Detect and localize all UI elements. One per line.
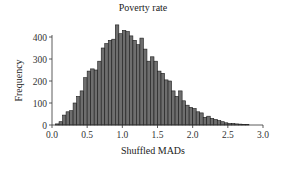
- x-tick-label: 0.0: [46, 130, 58, 140]
- histogram-bar: [129, 36, 133, 125]
- histogram-bar: [168, 81, 172, 125]
- histogram-bar: [91, 69, 95, 125]
- x-tick-label: 2.5: [222, 130, 234, 140]
- histogram-bar: [193, 109, 197, 126]
- histogram-bar: [136, 45, 140, 125]
- x-tick-label: 0.5: [81, 130, 93, 140]
- histogram-bar: [217, 121, 221, 125]
- x-tick-label: 1.5: [152, 130, 164, 140]
- histogram-bar: [112, 39, 116, 125]
- histogram-bar: [186, 105, 190, 125]
- histogram-bar: [80, 91, 84, 125]
- histogram-bar: [207, 116, 211, 125]
- histogram-bar: [108, 40, 112, 125]
- histogram-bar: [98, 61, 102, 125]
- x-tick-label: 3.0: [257, 130, 269, 140]
- y-tick-label: 300: [33, 55, 48, 65]
- histogram-bar: [70, 111, 74, 125]
- histogram-bar: [133, 40, 137, 125]
- y-tick-label: 0: [42, 121, 47, 131]
- histogram-bar: [143, 49, 147, 125]
- histogram-bar: [158, 71, 162, 125]
- histogram-bar: [214, 120, 218, 126]
- histogram-bar: [221, 122, 225, 125]
- histogram-bar: [179, 91, 183, 125]
- histogram-bar: [147, 61, 151, 125]
- histogram-bar: [175, 96, 179, 125]
- y-tick-label: 200: [33, 77, 48, 87]
- histogram-bar: [66, 112, 70, 125]
- histogram-bar: [203, 117, 207, 125]
- y-tick-label: 400: [33, 33, 48, 43]
- histogram-bar: [73, 103, 77, 125]
- histogram-bar: [165, 80, 169, 125]
- histogram-bar: [115, 25, 119, 125]
- histogram-bar: [63, 115, 67, 125]
- histogram-bar: [196, 112, 200, 125]
- histogram-bar: [77, 96, 81, 125]
- histogram-bar: [172, 91, 176, 125]
- x-tick-label: 1.0: [116, 130, 128, 140]
- histogram-bar: [122, 30, 126, 125]
- histogram-bar: [126, 32, 130, 126]
- histogram-bar: [182, 101, 186, 125]
- histogram-bar: [105, 44, 109, 125]
- histogram-bar: [189, 107, 193, 125]
- histogram-bar: [140, 38, 144, 125]
- histogram-bar: [94, 70, 98, 125]
- histogram-bar: [59, 122, 63, 125]
- histogram-bar: [210, 118, 214, 125]
- histogram-bar: [101, 48, 105, 125]
- histogram-bar: [200, 113, 204, 125]
- histogram-bar: [150, 57, 154, 125]
- x-tick-label: 2.0: [187, 130, 199, 140]
- histogram-plot: 0.00.51.01.52.02.53.00100200300400: [0, 0, 286, 169]
- histogram-bar: [119, 34, 123, 125]
- histogram-bar: [154, 61, 158, 125]
- histogram-bar: [87, 71, 91, 125]
- histogram-bar: [161, 73, 165, 125]
- y-tick-label: 100: [33, 99, 48, 109]
- histogram-bar: [84, 78, 88, 125]
